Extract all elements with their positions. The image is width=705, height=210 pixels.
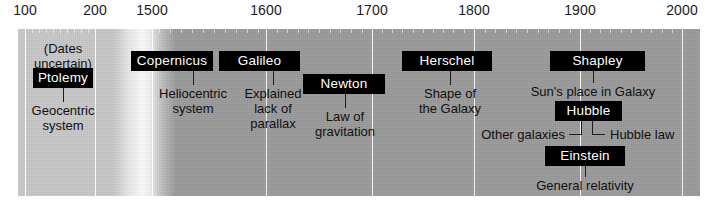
axis-tick: [610, 29, 611, 33]
axis-tick: [192, 29, 193, 33]
axis-tick: [641, 29, 642, 33]
name-box-galileo[interactable]: Galileo: [219, 51, 300, 71]
axis-tick: [672, 29, 673, 33]
axis-tick: [362, 29, 363, 33]
caption-ptolemy: Geocentric system: [18, 103, 123, 133]
axis-tick: [330, 29, 331, 33]
axis-tick: [225, 29, 226, 33]
axis-tick: [214, 29, 215, 33]
axis-tick: [413, 29, 414, 33]
connector-elbow-hubble-right: [592, 134, 605, 135]
axis-tick: [621, 29, 622, 33]
axis-tick: [319, 29, 320, 33]
connector-line-galileo: [273, 71, 274, 85]
axis-tick: [506, 29, 507, 33]
axis-tick: [170, 29, 171, 33]
axis-tick: [382, 29, 383, 33]
connector-line-herschel: [450, 71, 451, 85]
axis-tick: [631, 29, 632, 33]
name-box-newton[interactable]: Newton: [303, 74, 385, 94]
axis-tick: [600, 29, 601, 33]
name-box-ptolemy[interactable]: Ptolemy: [33, 68, 93, 88]
axis-tick: [287, 29, 288, 33]
axis-label-year: 1500: [136, 2, 168, 18]
name-box-copernicus[interactable]: Copernicus: [131, 51, 213, 71]
axis-tick: [32, 29, 33, 33]
axis-tick: [203, 29, 204, 33]
axis-tick: [39, 29, 40, 33]
axis-tick: [46, 29, 47, 33]
axis-label-year: 100: [13, 2, 37, 18]
connector-line-shapley: [593, 71, 594, 83]
axis-tick: [453, 29, 454, 33]
axis-tick: [351, 29, 352, 33]
name-box-herschel[interactable]: Herschel: [402, 51, 492, 71]
axis-tick: [559, 29, 560, 33]
axis-tick: [527, 29, 528, 33]
axis-tick: [88, 29, 89, 33]
axis-tick: [590, 29, 591, 33]
connector-line-hubble-right: [592, 121, 593, 135]
axis-label-year: 200: [83, 2, 107, 18]
axis-tick: [258, 29, 259, 33]
axis-tick: [159, 29, 160, 33]
caption-hubble-other-galaxies: Other galaxies: [473, 127, 565, 142]
caption-einstein: General relativity: [500, 178, 670, 193]
axis-tick: [423, 29, 424, 33]
axis-tick: [81, 29, 82, 33]
axis-tick: [464, 29, 465, 33]
axis-tick: [67, 29, 68, 33]
name-box-hubble[interactable]: Hubble: [555, 101, 622, 121]
connector-line-ptolemy: [63, 88, 64, 102]
axis-label-year: 1800: [458, 2, 490, 18]
name-box-shapley[interactable]: Shapley: [550, 51, 645, 71]
axis-tick: [402, 29, 403, 33]
axis-tick: [548, 29, 549, 33]
axis-tick: [60, 29, 61, 33]
axis-tick: [485, 29, 486, 33]
connector-line-newton: [345, 94, 346, 108]
axis-tick: [236, 29, 237, 33]
axis-tick: [340, 29, 341, 33]
connector-line-hubble-left: [581, 121, 582, 135]
axis-tick: [74, 29, 75, 33]
axis-tick: [392, 29, 393, 33]
timeline-axis-labels: 100 200 1500 1600 1700 1800 1900 2000: [0, 0, 705, 26]
timeline-band: (Dates uncertain) Ptolemy Geocentric sys…: [18, 29, 700, 196]
axis-tick: [662, 29, 663, 33]
axis-label-year: 1700: [356, 2, 388, 18]
caption-hubble-law: Hubble law: [610, 127, 700, 142]
axis-tick: [53, 29, 54, 33]
axis-tick: [538, 29, 539, 33]
axis-tick: [298, 29, 299, 33]
axis-tick: [570, 29, 571, 33]
axis-tick: [433, 29, 434, 33]
connector-elbow-hubble-left: [569, 134, 582, 135]
axis-tick: [495, 29, 496, 33]
note-dates-uncertain: (Dates uncertain): [18, 41, 118, 71]
axis-tick: [308, 29, 309, 33]
name-box-einstein[interactable]: Einstein: [545, 146, 625, 166]
axis-label-year: 2000: [666, 2, 698, 18]
caption-herschel: Shape of the Galaxy: [395, 86, 505, 116]
astronomy-timeline-figure: 100 200 1500 1600 1700 1800 1900 2000: [0, 0, 705, 210]
axis-tick: [651, 29, 652, 33]
caption-shapley: Sun's place in Galaxy: [498, 84, 688, 99]
connector-line-copernicus: [193, 71, 194, 85]
axis-label-year: 1600: [250, 2, 282, 18]
caption-newton: Law of gravitation: [290, 109, 400, 139]
axis-tick: [443, 29, 444, 33]
axis-tick: [516, 29, 517, 33]
axis-tick: [181, 29, 182, 33]
axis-label-year: 1900: [564, 2, 596, 18]
gridline-2000: [682, 29, 683, 196]
axis-tick: [277, 29, 278, 33]
axis-tick: [247, 29, 248, 33]
connector-line-einstein: [585, 166, 586, 177]
